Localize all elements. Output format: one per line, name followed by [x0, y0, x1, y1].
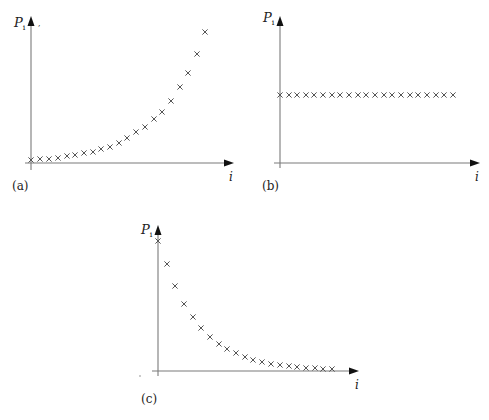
panel-c-markers	[155, 238, 334, 371]
data-point-marker	[190, 314, 195, 319]
data-point-marker	[303, 92, 308, 97]
panel-c-y-arrow-icon	[155, 225, 162, 235]
data-point-marker	[363, 92, 368, 97]
data-point-marker	[286, 363, 291, 368]
data-point-marker	[320, 92, 325, 97]
data-point-marker	[398, 92, 403, 97]
panel-b-label: (b)	[262, 179, 279, 193]
panel-b: Pi i (b)	[262, 10, 480, 193]
data-point-marker	[55, 155, 60, 160]
data-point-marker	[250, 357, 255, 362]
data-point-marker	[424, 92, 429, 97]
data-point-marker	[159, 109, 164, 114]
panel-b-x-label: i	[475, 170, 479, 184]
data-point-marker	[164, 261, 169, 266]
panel-a-x-arrow-icon	[224, 160, 234, 167]
data-point-marker	[72, 152, 77, 157]
panel-b-markers	[277, 92, 455, 97]
data-point-marker	[259, 359, 264, 364]
data-point-marker	[450, 92, 455, 97]
panel-a-stray-mark: ,	[38, 19, 41, 28]
panel-c: Pi i (c)	[139, 222, 359, 406]
data-point-marker	[46, 156, 51, 161]
data-point-marker	[181, 301, 186, 306]
data-point-marker	[64, 153, 69, 158]
data-point-marker	[98, 146, 103, 151]
data-point-marker	[90, 149, 95, 154]
data-point-marker	[151, 116, 156, 121]
panel-a-y-label: Pi	[13, 15, 26, 32]
data-point-marker	[172, 283, 177, 288]
data-point-marker	[372, 92, 377, 97]
panel-c-x-label: i	[355, 378, 359, 392]
panel-a-x-label: i	[229, 170, 233, 184]
panel-b-y-label: Pi	[262, 10, 275, 27]
data-point-marker	[346, 92, 351, 97]
data-point-marker	[107, 144, 112, 149]
figure: Pi , i (a) Pi i (b) Pi i (c)	[0, 0, 489, 420]
data-point-marker	[294, 92, 299, 97]
data-point-marker	[168, 98, 173, 103]
data-point-marker	[224, 346, 229, 351]
data-point-marker	[337, 92, 342, 97]
data-point-marker	[407, 92, 412, 97]
data-point-marker	[312, 365, 317, 370]
panel-b-y-arrow-icon	[277, 16, 284, 26]
data-point-marker	[441, 92, 446, 97]
data-point-marker	[268, 361, 273, 366]
panel-c-x-arrow-icon	[349, 368, 359, 375]
data-point-marker	[207, 334, 212, 339]
data-point-marker	[433, 92, 438, 97]
data-point-marker	[277, 362, 282, 367]
panel-c-stray-dot	[139, 375, 141, 377]
data-point-marker	[216, 341, 221, 346]
data-point-marker	[116, 140, 121, 145]
panel-a-y-arrow-icon	[28, 16, 35, 26]
data-point-marker	[286, 92, 291, 97]
data-point-marker	[124, 135, 129, 140]
panel-c-label: (c)	[141, 392, 157, 406]
panel-a-markers	[28, 29, 207, 162]
data-point-marker	[381, 92, 386, 97]
panel-a: Pi , i (a)	[12, 15, 234, 193]
data-point-marker	[355, 92, 360, 97]
data-point-marker	[303, 365, 308, 370]
data-point-marker	[177, 84, 182, 89]
data-point-marker	[37, 156, 42, 161]
data-point-marker	[194, 51, 199, 56]
data-point-marker	[311, 92, 316, 97]
data-point-marker	[233, 350, 238, 355]
data-point-marker	[242, 354, 247, 359]
data-point-marker	[142, 124, 147, 129]
data-point-marker	[81, 150, 86, 155]
data-point-marker	[198, 325, 203, 330]
panel-b-x-arrow-icon	[470, 160, 480, 167]
data-point-marker	[389, 92, 394, 97]
data-point-marker	[202, 29, 207, 34]
data-point-marker	[294, 364, 299, 369]
data-point-marker	[415, 92, 420, 97]
panel-c-y-label: Pi	[140, 222, 153, 239]
data-point-marker	[133, 129, 138, 134]
data-point-marker	[185, 70, 190, 75]
panel-a-label: (a)	[12, 179, 29, 193]
data-point-marker	[329, 92, 334, 97]
